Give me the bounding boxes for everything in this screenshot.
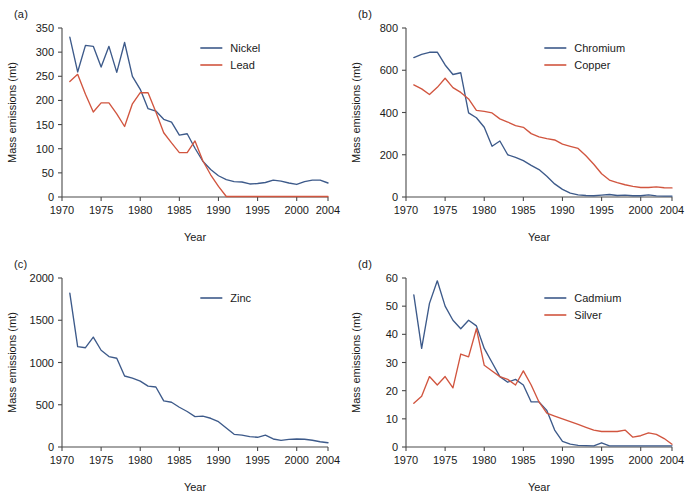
x-axis-title: Year <box>528 481 551 493</box>
emissions-figure: (a)0501001502002503003501970197519801985… <box>0 0 688 499</box>
y-tick-label: 40 <box>386 328 398 340</box>
y-tick-label: 10 <box>386 413 398 425</box>
y-tick-label: 50 <box>42 167 54 179</box>
x-tick-label: 1970 <box>394 204 418 216</box>
y-tick-label: 500 <box>36 399 54 411</box>
legend-label-nickel: Nickel <box>230 42 260 54</box>
y-tick-label: 0 <box>48 191 54 203</box>
x-tick-label: 1995 <box>589 454 613 466</box>
x-tick-label: 1990 <box>206 204 230 216</box>
chart-panel-d: (d)0102030405060197019751980198519901995… <box>344 250 688 499</box>
y-tick-label: 300 <box>36 46 54 58</box>
y-tick-label: 400 <box>380 107 398 119</box>
legend-label-lead: Lead <box>230 59 254 71</box>
x-tick-label: 1975 <box>89 454 113 466</box>
series-line-lead <box>70 74 328 196</box>
y-axis-title: Mass emissions (mt) <box>6 312 18 413</box>
x-tick-label: 1975 <box>89 204 113 216</box>
x-tick-label: 2000 <box>284 454 308 466</box>
y-tick-label: 1000 <box>30 357 54 369</box>
x-tick-label: 1990 <box>206 454 230 466</box>
x-tick-label: 1970 <box>50 204 74 216</box>
x-tick-label: 1985 <box>167 204 191 216</box>
x-tick-label: 2000 <box>628 454 652 466</box>
x-tick-label: 2000 <box>284 204 308 216</box>
plot-area: 0200400600800197019751980198519901995200… <box>344 0 688 249</box>
y-tick-label: 2000 <box>30 272 54 284</box>
y-axis-title: Mass emissions (mt) <box>350 312 362 413</box>
chart-panel-b: (b)0200400600800197019751980198519901995… <box>344 0 688 249</box>
series-line-cadmium <box>414 281 672 446</box>
series-line-copper <box>414 78 672 188</box>
y-axis-title: Mass emissions (mt) <box>6 62 18 163</box>
x-tick-label: 2004 <box>316 454 340 466</box>
x-tick-label: 1975 <box>433 454 457 466</box>
x-axis-title: Year <box>528 231 551 243</box>
x-tick-label: 1980 <box>128 454 152 466</box>
y-tick-label: 30 <box>386 357 398 369</box>
y-tick-label: 60 <box>386 272 398 284</box>
y-tick-label: 350 <box>36 22 54 34</box>
legend-label-chromium: Chromium <box>574 42 625 54</box>
x-tick-label: 1970 <box>50 454 74 466</box>
series-line-nickel <box>70 37 328 184</box>
x-tick-label: 1995 <box>245 454 269 466</box>
y-tick-label: 0 <box>48 441 54 453</box>
x-tick-label: 1990 <box>550 454 574 466</box>
y-tick-label: 250 <box>36 70 54 82</box>
x-axis-title: Year <box>184 481 207 493</box>
plot-area: 0500100015002000197019751980198519901995… <box>0 250 344 499</box>
legend-label-zinc: Zinc <box>230 292 251 304</box>
series-line-silver <box>414 329 672 444</box>
x-tick-label: 1975 <box>433 204 457 216</box>
series-line-zinc <box>70 293 328 443</box>
x-tick-label: 1970 <box>394 454 418 466</box>
x-tick-label: 1985 <box>511 204 535 216</box>
x-tick-label: 1985 <box>167 454 191 466</box>
y-tick-label: 800 <box>380 22 398 34</box>
chart-panel-a: (a)0501001502002503003501970197519801985… <box>0 0 344 249</box>
chart-panel-c: (c)0500100015002000197019751980198519901… <box>0 250 344 499</box>
legend-label-copper: Copper <box>574 59 610 71</box>
y-tick-label: 0 <box>392 441 398 453</box>
x-tick-label: 1995 <box>245 204 269 216</box>
x-tick-label: 1980 <box>472 204 496 216</box>
x-axis-title: Year <box>184 231 207 243</box>
series-line-chromium <box>414 52 672 196</box>
y-tick-label: 1500 <box>30 314 54 326</box>
y-tick-label: 200 <box>380 149 398 161</box>
y-tick-label: 100 <box>36 143 54 155</box>
legend-label-silver: Silver <box>574 309 602 321</box>
x-tick-label: 1985 <box>511 454 535 466</box>
y-tick-label: 50 <box>386 300 398 312</box>
x-tick-label: 2004 <box>660 454 684 466</box>
legend-label-cadmium: Cadmium <box>574 292 621 304</box>
y-tick-label: 600 <box>380 64 398 76</box>
x-tick-label: 2000 <box>628 204 652 216</box>
y-tick-label: 200 <box>36 94 54 106</box>
x-tick-label: 1995 <box>589 204 613 216</box>
y-axis-title: Mass emissions (mt) <box>350 62 362 163</box>
x-tick-label: 2004 <box>660 204 684 216</box>
y-tick-label: 0 <box>392 191 398 203</box>
plot-area: 0501001502002503003501970197519801985199… <box>0 0 344 249</box>
y-tick-label: 20 <box>386 385 398 397</box>
y-tick-label: 150 <box>36 119 54 131</box>
x-tick-label: 2004 <box>316 204 340 216</box>
x-tick-label: 1980 <box>128 204 152 216</box>
x-tick-label: 1980 <box>472 454 496 466</box>
plot-area: 0102030405060197019751980198519901995200… <box>344 250 688 499</box>
x-tick-label: 1990 <box>550 204 574 216</box>
